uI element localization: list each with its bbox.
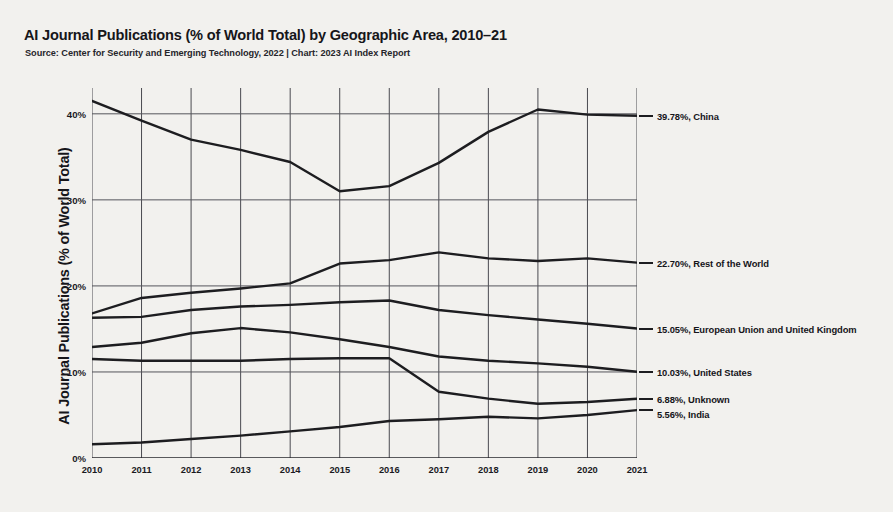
series-end-marker [639,262,653,264]
series-end-label-rest-of-the-world: 22.70%, Rest of the World [657,257,769,268]
y-tick-label: 30% [67,194,86,205]
x-tick-label: 2013 [230,465,251,475]
y-tick-label: 20% [67,280,86,291]
x-tick-label: 2021 [627,465,648,475]
chart-page: AI Journal Publications (% of World Tota… [0,0,893,512]
series-end-marker [639,115,653,117]
x-tick-label: 2019 [528,465,549,475]
x-tick-label: 2012 [181,465,202,475]
x-tick-label: 2016 [379,465,400,475]
series-end-marker [639,398,653,400]
y-tick-label: 0% [72,453,86,464]
series-end-label-european-union-and-united-kingdom: 15.05%, European Union and United Kingdo… [657,323,857,334]
series-line-united-states[interactable] [92,328,637,372]
series-end-marker [639,328,653,330]
y-tick-label: 40% [67,108,86,119]
series-line-india[interactable] [92,410,637,444]
x-tick-label: 2010 [82,465,103,475]
series-line-european-union-and-united-kingdom[interactable] [92,301,637,329]
series-line-rest-of-the-world[interactable] [92,252,637,313]
x-tick-label: 2020 [577,465,598,475]
series-end-label-india: 5.56%, India [657,408,709,419]
series-end-label-united-states: 10.03%, United States [657,366,752,377]
chart-plot-area [92,88,637,458]
x-tick-label: 2018 [478,465,499,475]
x-tick-label: 2017 [428,465,449,475]
x-tick-label: 2014 [280,465,301,475]
x-tick-label: 2011 [131,465,151,475]
y-tick-label: 10% [67,366,86,377]
x-axis-tick-labels: 2010201120122013201420152016201720182019… [92,463,637,481]
horizontal-gridlines [92,114,637,458]
chart-source-caption: Source: Center for Security and Emerging… [25,48,410,58]
y-axis-tick-labels: 0%10%20%30%40% [52,88,86,458]
series-end-marker [639,409,653,411]
page-title: AI Journal Publications (% of World Tota… [24,27,507,43]
series-line-china[interactable] [92,101,637,191]
series-end-marker [639,371,653,373]
x-tick-label: 2015 [329,465,350,475]
series-end-label-unknown: 6.88%, Unknown [657,393,730,404]
series-lines [92,101,637,444]
series-end-label-china: 39.78%, China [657,110,719,121]
line-chart-svg [92,88,637,458]
